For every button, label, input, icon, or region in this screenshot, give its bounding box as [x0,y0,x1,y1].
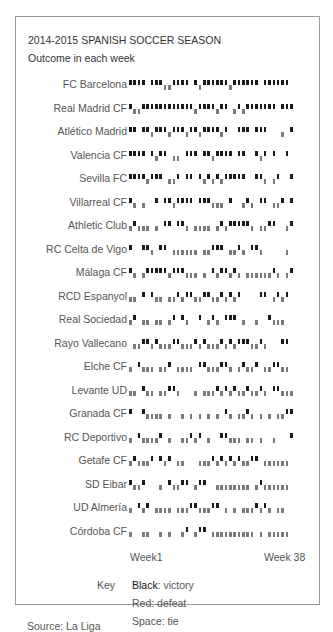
defeat-mark [242,320,245,325]
defeat-mark [220,532,223,537]
victory-mark [155,80,158,85]
team-row: Granada CF [16,404,319,424]
defeat-mark [238,414,241,419]
team-label: Villarreal CF [69,196,127,208]
defeat-mark [129,391,132,396]
victory-mark [159,433,162,438]
victory-mark [199,174,202,179]
victory-mark [207,80,210,85]
defeat-mark [229,273,232,278]
victory-mark [260,127,263,132]
defeat-mark [251,203,254,208]
defeat-mark [129,438,132,443]
defeat-mark [233,485,236,490]
victory-mark [155,268,158,273]
victory-mark [246,386,249,391]
defeat-mark [260,273,263,278]
victory-mark [177,174,180,179]
defeat-mark [220,203,223,208]
defeat-mark [181,414,184,419]
defeat-mark [264,391,267,396]
defeat-mark [177,391,180,396]
key-victory: Black: victory [132,579,194,591]
defeat-mark [159,344,162,349]
victory-mark [229,198,232,203]
team-row: Levante UD [16,381,319,401]
defeat-mark [138,109,141,114]
defeat-mark [238,273,241,278]
victory-mark [290,409,293,414]
defeat-mark [203,391,206,396]
victory-mark [225,80,228,85]
defeat-mark [260,226,263,231]
team-label: Atlético Madrid [58,125,127,137]
victory-mark [142,127,145,132]
defeat-mark [246,438,249,443]
victory-mark [242,339,245,344]
victory-mark [203,292,206,297]
victory-mark [190,104,193,109]
defeat-mark [281,297,284,302]
week-marks [129,475,299,495]
defeat-mark [273,203,276,208]
defeat-mark [146,226,149,231]
victory-mark [146,339,149,344]
defeat-mark [151,414,154,419]
team-label: Elche CF [84,360,127,372]
defeat-mark [129,226,132,231]
defeat-mark [216,414,219,419]
defeat-mark [238,391,241,396]
defeat-mark [281,508,284,513]
defeat-mark [129,320,132,325]
defeat-mark [207,438,210,443]
team-row: Sevilla FC [16,169,319,189]
defeat-mark [251,273,254,278]
defeat-mark [199,226,202,231]
team-label: RC Celta de Vigo [46,243,127,255]
defeat-mark [199,508,202,513]
defeat-mark [242,203,245,208]
defeat-mark [146,414,149,419]
week-marks [129,146,299,166]
victory-mark [225,268,228,273]
team-label: Real Madrid CF [53,102,127,114]
defeat-mark [246,508,249,513]
defeat-mark [251,414,254,419]
victory-mark [225,127,228,132]
victory-mark [229,339,232,344]
defeat-mark [133,485,136,490]
victory-mark [173,127,176,132]
team-label: Málaga CF [76,266,127,278]
victory-mark [255,362,258,367]
week-marks [129,75,299,95]
defeat-mark [194,391,197,396]
week-marks [129,193,299,213]
victory-mark [138,503,141,508]
defeat-mark [212,203,215,208]
victory-mark [142,339,145,344]
victory-mark [129,409,132,414]
victory-mark [220,151,223,156]
victory-mark [255,127,258,132]
victory-mark [260,339,263,344]
victory-mark [260,480,263,485]
defeat-mark [220,132,223,137]
victory-mark [173,339,176,344]
victory-mark [251,456,254,461]
victory-mark [233,80,236,85]
victory-mark [168,221,171,226]
defeat-mark [138,461,141,466]
defeat-mark [151,391,154,396]
victory-mark [277,386,280,391]
victory-mark [142,245,145,250]
team-row: RC Deportivo [16,428,319,448]
defeat-mark [164,508,167,513]
victory-mark [164,268,167,273]
chart-subtitle: Outcome in each week [28,52,135,64]
victory-mark [159,127,162,132]
victory-mark [138,174,141,179]
victory-mark [242,151,245,156]
defeat-mark [181,461,184,466]
victory-mark [255,456,258,461]
victory-mark [290,127,293,132]
